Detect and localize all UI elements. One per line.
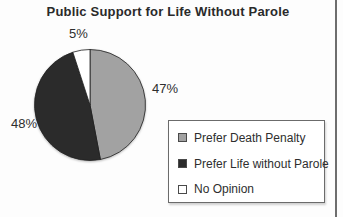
- pie-slice-death-penalty: [90, 49, 146, 159]
- legend-item-life-without-parole: Prefer Life without Parole: [178, 151, 324, 177]
- legend-swatch-no-opinion: [178, 185, 187, 194]
- chart-title: Public Support for Life Without Parole: [0, 4, 336, 19]
- legend-swatch-life-without-parole: [178, 159, 187, 168]
- legend-item-no-opinion: No Opinion: [178, 176, 324, 202]
- pct-label-no-opinion: 5%: [69, 27, 88, 40]
- legend-label-life-without-parole: Prefer Life without Parole: [194, 157, 329, 171]
- legend-item-death-penalty: Prefer Death Penalty: [178, 125, 324, 151]
- pie-chart: [33, 48, 147, 162]
- chart-container: Public Support for Life Without Parole 5…: [0, 0, 343, 217]
- legend: Prefer Death PenaltyPrefer Life without …: [168, 120, 325, 203]
- pct-label-life-without-parole: 48%: [11, 117, 37, 130]
- legend-label-no-opinion: No Opinion: [194, 182, 254, 196]
- legend-label-death-penalty: Prefer Death Penalty: [194, 131, 305, 145]
- legend-swatch-death-penalty: [178, 133, 187, 142]
- page-edge-line: [335, 0, 337, 217]
- pct-label-death-penalty: 47%: [152, 82, 178, 95]
